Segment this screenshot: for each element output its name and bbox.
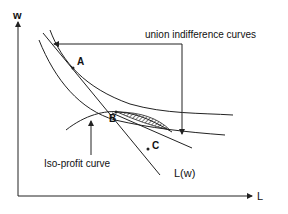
y-axis-label: w [13, 10, 22, 21]
indifference-curve-lower [39, 40, 225, 135]
point-c-marker [147, 148, 150, 151]
point-a-label: A [77, 57, 84, 67]
labor-demand-curve [43, 33, 160, 175]
x-axis-label: L [257, 191, 263, 202]
point-a-marker [72, 67, 75, 70]
point-c-label: C [152, 141, 159, 151]
indifference-curve-upper [50, 30, 233, 115]
iso-profit-label: Iso-profit curve [44, 159, 110, 169]
union-curves-label: union indifference curves [145, 30, 256, 40]
point-b-label: B [109, 114, 116, 124]
labor-demand-label: L(w) [174, 168, 195, 179]
